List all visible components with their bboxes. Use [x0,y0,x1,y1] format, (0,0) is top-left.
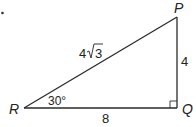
side-label-rp-radicand: 3 [95,46,102,61]
problem-marker-dot [1,12,4,15]
vertex-label-p: P [174,0,184,16]
triangle-diagram: P Q R 4 3 4 8 30° [0,0,196,127]
side-rp [24,17,177,108]
vertex-label-r: R [9,101,19,117]
vertex-label-q: Q [182,101,193,117]
angle-label-r: 30° [48,94,66,108]
side-label-rq: 8 [102,111,109,126]
side-label-rp-coefficient: 4 [79,46,86,61]
right-angle-marker [170,101,177,108]
side-label-pq: 4 [181,54,188,69]
